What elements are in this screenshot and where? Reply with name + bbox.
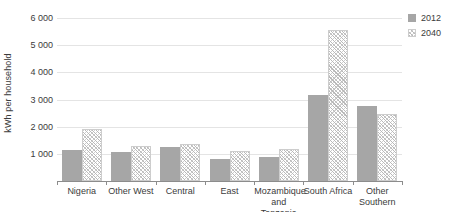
y-axis-tick-label: 6 000: [30, 13, 53, 23]
bar-2040-mozambique-and-tanzania: [279, 149, 299, 181]
y-axis-tick-label: 1 000: [30, 149, 53, 159]
y-axis-tick-label: 3 000: [30, 95, 53, 105]
legend-swatch-icon-2040: [408, 29, 416, 37]
legend-label-2040: 2040: [421, 28, 441, 38]
y-axis-title-label: kWh per household: [3, 53, 13, 132]
bar-2012-other-west: [111, 152, 131, 181]
legend-item-2012: 2012: [408, 10, 459, 25]
bar-2040-other-southern: [377, 114, 397, 181]
legend-label-2012: 2012: [421, 13, 441, 23]
x-axis-tick-label: Other West: [106, 186, 155, 197]
x-axis-tick: [303, 181, 304, 185]
bar-2040-east: [230, 151, 250, 181]
bar-chart: kWh per household 1 0002 0003 0004 0005 …: [0, 0, 459, 212]
legend-swatch-icon-2012: [408, 14, 416, 22]
bar-2012-south-africa: [308, 95, 328, 181]
x-axis-tick: [402, 181, 403, 185]
y-axis-tick-label: 2 000: [30, 122, 53, 132]
y-axis-title: kWh per household: [0, 0, 16, 186]
bar-2040-central: [180, 144, 200, 181]
bar-2012-nigeria: [62, 150, 82, 181]
x-axis-tick-label: Central: [156, 186, 205, 197]
x-axis-tick-label: Nigeria: [57, 186, 106, 197]
x-axis-tick-labels: NigeriaOther WestCentralEastMozambique a…: [57, 186, 402, 212]
legend: 2012 2040: [408, 10, 459, 40]
bar-2012-other-southern: [357, 106, 377, 181]
y-axis-tick-label: 5 000: [30, 40, 53, 50]
bars-layer: [57, 18, 402, 181]
bar-2040-south-africa: [328, 30, 348, 181]
bar-2012-central: [160, 147, 180, 181]
y-axis-tick-label: 4 000: [30, 67, 53, 77]
x-axis-tick: [254, 181, 255, 185]
y-axis-tick-labels: 1 0002 0003 0004 0005 0006 000: [16, 0, 56, 186]
x-axis-tick-label: Mozambique and Tanzania: [254, 186, 303, 212]
x-axis-tick: [106, 181, 107, 185]
x-axis-tick: [205, 181, 206, 185]
x-axis-tick-label: Other Southern: [353, 186, 402, 208]
x-axis-tick: [353, 181, 354, 185]
bar-2012-east: [210, 159, 230, 181]
bar-2040-other-west: [131, 146, 151, 181]
x-axis-tick-label: South Africa: [303, 186, 352, 197]
bar-2012-mozambique-and-tanzania: [259, 157, 279, 181]
legend-item-2040: 2040: [408, 25, 459, 40]
x-axis-tick-label: East: [205, 186, 254, 197]
plot-area: [57, 18, 402, 181]
x-axis-tick: [156, 181, 157, 185]
x-axis-tick: [57, 181, 58, 185]
bar-2040-nigeria: [82, 129, 102, 181]
